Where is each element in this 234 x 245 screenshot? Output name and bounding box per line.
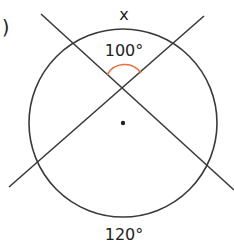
arc-label-120: 120° bbox=[105, 225, 144, 244]
part-label-paren: ) bbox=[2, 16, 9, 38]
center-dot bbox=[121, 121, 125, 125]
angle-label-100: 100° bbox=[105, 41, 144, 60]
arc-label-x: x bbox=[119, 5, 128, 24]
angle-arc-mark bbox=[107, 64, 141, 75]
circle-diagram: ) x 100° 120° bbox=[0, 0, 234, 245]
